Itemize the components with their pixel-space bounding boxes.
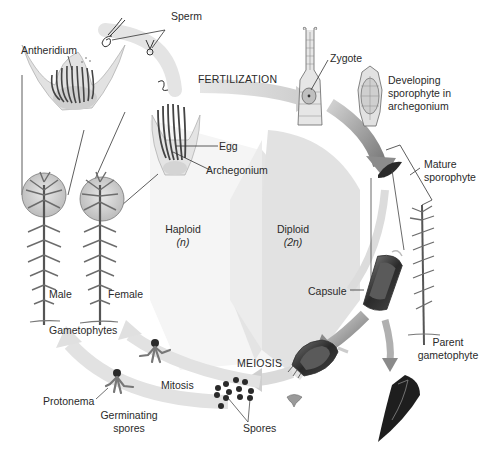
label-spores: Spores — [243, 422, 276, 434]
male-gametophyte-illustration — [22, 172, 66, 325]
label-parent-line-1: Parent — [408, 336, 488, 349]
label-developing-line-1: Developing — [388, 74, 451, 87]
label-capsule: Capsule — [308, 285, 347, 297]
label-female: Female — [108, 288, 143, 300]
developing-sporophyte-illustration — [358, 66, 382, 126]
label-gametophytes: Gametophytes — [49, 324, 117, 336]
label-fertilization: FERTILIZATION — [198, 73, 277, 85]
diagram-artwork — [0, 0, 498, 450]
label-meiosis: MEIOSIS — [237, 357, 282, 369]
label-parent-line-2: gametophyte — [408, 349, 488, 362]
zygote-illustration — [298, 27, 328, 125]
moss-life-cycle-diagram: Sperm Antheridium FERTILIZATION Zygote D… — [0, 0, 498, 450]
label-antheridium: Antheridium — [21, 44, 77, 56]
label-egg: Egg — [219, 140, 238, 152]
label-germinating-spores: Germinating spores — [94, 409, 164, 435]
label-mitosis: Mitosis — [161, 379, 194, 391]
label-developing-sporophyte: Developing sporophyte in archegonium — [388, 74, 451, 113]
label-parent-gametophyte: Parent gametophyte — [408, 336, 488, 362]
label-germinating-line-1: Germinating — [94, 409, 164, 422]
label-haploid: Haploid — [158, 223, 208, 235]
label-germinating-line-2: spores — [94, 422, 164, 435]
label-zygote: Zygote — [330, 52, 362, 64]
capsule-lid-illustration — [287, 395, 302, 408]
label-diploid: Diploid — [268, 223, 318, 235]
label-archegonium: Archegonium — [206, 164, 268, 176]
female-gametophyte-illustration — [80, 172, 124, 325]
label-protonema: Protonema — [43, 395, 94, 407]
label-mature-sporophyte: Mature sporophyte — [424, 158, 476, 184]
label-mature-line-1: Mature — [424, 158, 476, 171]
label-mature-line-2: sporophyte — [424, 171, 476, 184]
label-developing-line-3: archegonium — [388, 100, 451, 113]
label-developing-line-2: sporophyte in — [388, 87, 451, 100]
label-sperm: Sperm — [171, 10, 202, 22]
label-haploid-ploidy: (n) — [158, 236, 208, 248]
label-diploid-ploidy: (2n) — [268, 236, 318, 248]
fertilization-arrow — [200, 86, 300, 98]
dropped-capsule-illustration — [378, 375, 420, 442]
label-male: Male — [49, 288, 72, 300]
